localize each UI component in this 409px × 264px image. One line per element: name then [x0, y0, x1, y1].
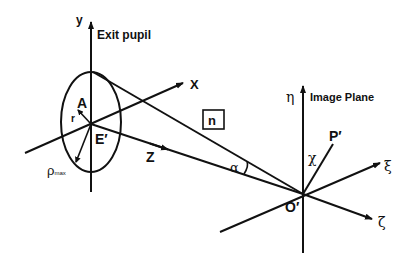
- eta-axis-label: η: [286, 89, 294, 105]
- z-axis: [91, 124, 303, 194]
- center-e-label: E′: [95, 131, 108, 147]
- optics-diagram: y Exit pupil X A r E′ ρmax Z n α η Image…: [0, 0, 409, 264]
- chi-label: χ: [308, 150, 317, 166]
- r-vector: [78, 110, 91, 124]
- z-axis-label: Z: [146, 149, 155, 165]
- alpha-arc: [244, 162, 248, 174]
- y-axis-label: y: [76, 13, 83, 27]
- exit-pupil-label: Exit pupil: [97, 28, 151, 42]
- radius-label: r: [71, 113, 75, 124]
- diagram-canvas: y Exit pupil X A r E′ ρmax Z n α η Image…: [0, 0, 409, 264]
- point-a-label: A: [77, 95, 87, 111]
- image-plane-label: Image Plane: [310, 91, 374, 103]
- point-p-label: P′: [329, 128, 342, 144]
- zeta-axis: [303, 194, 372, 219]
- xi-axis-label: ξ: [384, 158, 392, 174]
- origin-o-label: O′: [285, 199, 300, 215]
- normal-label: n: [208, 113, 216, 128]
- alpha-label: α: [230, 160, 239, 175]
- rho-max-label: ρmax: [47, 163, 66, 178]
- x-axis-label: X: [190, 77, 199, 92]
- zeta-axis-label: ζ: [378, 214, 386, 230]
